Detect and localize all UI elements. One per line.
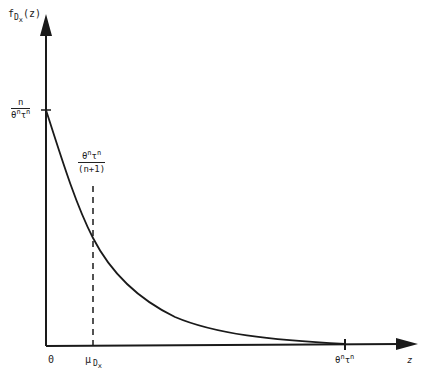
theta-exp: n [16,108,20,116]
theta-exp: n [87,149,91,157]
chart-canvas [0,0,427,376]
tau-exp: n [97,149,101,157]
mean-subsub: x [98,362,102,370]
tau-exp: n [26,108,30,116]
x-axis-arrow-icon [396,338,418,350]
mean-annotation: θnτn (n+1) [78,151,105,174]
density-curve [46,110,345,344]
x-axis-label: z [407,356,412,365]
origin-label: 0 [48,355,54,365]
y-intercept-label: n θnτn [11,97,30,120]
intercept-denominator: θnτn [11,109,30,120]
mean-annotation-numerator: θnτn [78,151,105,163]
tau-exp: n [350,353,354,361]
mean-label: μDx [85,355,102,365]
y-axis-arrow-icon [40,14,52,36]
y-label-subsub: x [19,16,23,24]
y-label-arg: (z) [23,8,41,19]
x-end-label: θnτn [335,356,354,365]
x-axis [46,344,402,346]
mu: μ [85,354,91,365]
theta-exp: n [340,353,344,361]
mean-annotation-denominator: (n+1) [78,163,105,174]
y-axis-label: fDx(z) [8,9,41,19]
